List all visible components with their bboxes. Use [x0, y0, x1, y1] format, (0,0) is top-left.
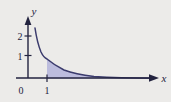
- figure-container: y x 2 1 1 0: [0, 0, 171, 102]
- x-axis-label: x: [161, 72, 167, 84]
- y-tick-label-2: 2: [18, 31, 23, 42]
- y-axis-label: y: [31, 5, 37, 17]
- plot-svg: y x 2 1 1 0: [0, 0, 171, 102]
- y-tick-label-1: 1: [18, 51, 23, 62]
- x-axis-arrowhead: [149, 74, 159, 81]
- y-axis-arrowhead: [25, 16, 32, 25]
- origin-label: 0: [19, 85, 24, 96]
- x-tick-label-1: 1: [45, 85, 50, 96]
